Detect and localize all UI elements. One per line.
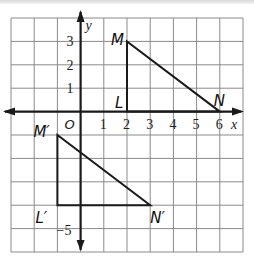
origin-label: O [65,117,75,132]
x-axis-right-arrow-icon [232,108,244,116]
coordinate-plane: 123456321−5yxOMLNM′L′N′ [0,0,254,258]
vertex-label-L: L [115,94,123,112]
y-tick-1: 1 [67,81,74,96]
y-tick-2: 2 [67,58,74,73]
y-axis-up-arrow-icon [77,10,85,22]
x-tick-2: 2 [123,117,130,132]
y-axis-down-arrow-icon [77,240,85,251]
x-tick-6: 6 [216,117,223,132]
vertex-label-N: N [214,92,225,110]
x-axis-left-arrow-icon [3,108,15,116]
x-tick-3: 3 [146,117,153,132]
y-tick-neg5: −5 [57,223,72,238]
vertex-label-M-prime: M′ [33,123,50,141]
vertex-label-L-prime: L′ [35,209,47,227]
x-tick-4: 4 [169,117,176,132]
vertex-label-M: M [111,31,124,49]
y-axis-label: y [84,18,93,33]
x-tick-5: 5 [193,117,200,132]
vertex-label-N-prime: N′ [150,209,165,227]
x-tick-1: 1 [100,117,107,132]
y-tick-3: 3 [67,34,74,49]
x-axis-label: x [230,117,238,132]
